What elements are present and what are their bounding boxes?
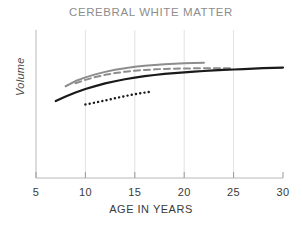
- gridlines: [85, 30, 233, 178]
- svg-text:15: 15: [128, 186, 141, 198]
- svg-text:25: 25: [227, 186, 240, 198]
- plot-area: 51015202530: [0, 0, 302, 225]
- series-black-solid: [56, 68, 283, 101]
- series-black-dotted: [85, 92, 149, 105]
- x-axis-ticks: [36, 172, 283, 178]
- svg-text:10: 10: [79, 186, 92, 198]
- data-series: [56, 63, 283, 105]
- axis-spines: [36, 30, 283, 178]
- svg-text:5: 5: [33, 186, 40, 198]
- svg-text:20: 20: [178, 186, 191, 198]
- x-axis-tick-labels: 51015202530: [33, 186, 290, 198]
- svg-text:30: 30: [276, 186, 289, 198]
- chart-figure: CEREBRAL WHITE MATTER Volume AGE IN YEAR…: [0, 0, 302, 225]
